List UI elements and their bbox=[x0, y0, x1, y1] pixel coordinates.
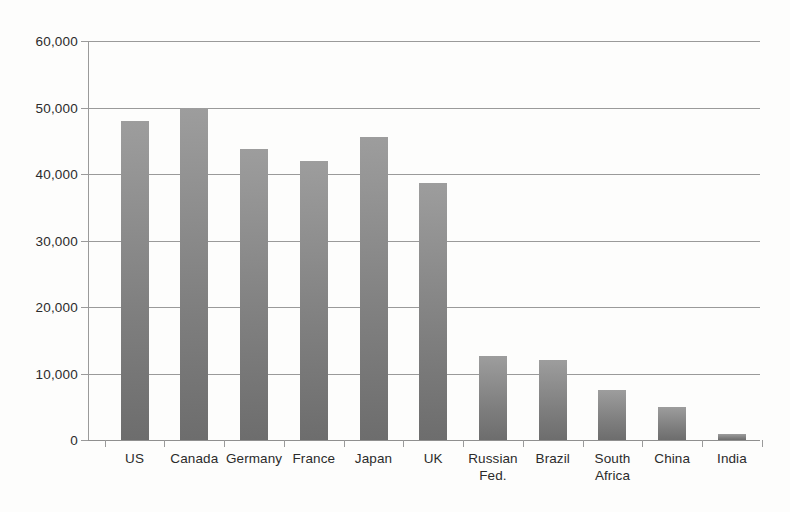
bar bbox=[360, 137, 388, 440]
bar bbox=[240, 149, 268, 440]
gridline bbox=[88, 440, 760, 441]
y-axis-label: 40,000 bbox=[36, 167, 79, 182]
y-axis-tick bbox=[81, 108, 88, 109]
x-axis-tick bbox=[523, 440, 524, 447]
x-axis-tick bbox=[344, 440, 345, 447]
y-axis-tick bbox=[81, 374, 88, 375]
x-axis-tick bbox=[105, 440, 106, 447]
x-axis-label-line: Africa bbox=[569, 467, 655, 484]
bar bbox=[479, 356, 507, 440]
gridline bbox=[88, 41, 760, 42]
y-axis-label: 10,000 bbox=[36, 366, 79, 381]
bar bbox=[121, 121, 149, 440]
y-axis-label: 50,000 bbox=[36, 100, 79, 115]
x-axis-tick bbox=[583, 440, 584, 447]
y-axis-tick bbox=[81, 307, 88, 308]
x-axis-tick bbox=[702, 440, 703, 447]
x-axis-tick bbox=[762, 440, 763, 447]
bar bbox=[598, 390, 626, 440]
bar bbox=[658, 407, 686, 440]
x-axis-label: India bbox=[689, 450, 775, 467]
plot-area bbox=[88, 41, 760, 440]
x-axis-tick bbox=[164, 440, 165, 447]
bar-chart: 010,00020,00030,00040,00050,00060,000USC… bbox=[0, 0, 790, 512]
bar bbox=[419, 183, 447, 440]
y-axis-label: 30,000 bbox=[36, 233, 79, 248]
bar bbox=[300, 161, 328, 440]
y-axis-label: 20,000 bbox=[36, 300, 79, 315]
x-axis-tick bbox=[224, 440, 225, 447]
y-axis-tick bbox=[81, 41, 88, 42]
x-axis-tick bbox=[463, 440, 464, 447]
x-axis-tick bbox=[284, 440, 285, 447]
y-axis-label: 60,000 bbox=[36, 34, 79, 49]
y-axis-tick bbox=[81, 174, 88, 175]
bar bbox=[180, 108, 208, 441]
y-axis-tick bbox=[81, 241, 88, 242]
bar bbox=[718, 434, 746, 440]
x-axis-tick bbox=[642, 440, 643, 447]
x-axis-label-line: Fed. bbox=[450, 467, 536, 484]
bar bbox=[539, 360, 567, 440]
y-axis-tick bbox=[81, 440, 88, 441]
y-axis-label: 0 bbox=[70, 433, 78, 448]
x-axis-label-line: India bbox=[689, 450, 775, 467]
x-axis-tick bbox=[403, 440, 404, 447]
